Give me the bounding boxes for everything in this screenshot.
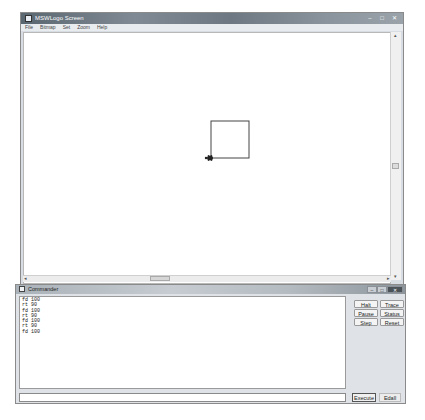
horizontal-scroll-thumb[interactable] [150,276,170,281]
turtle-graphics [24,33,390,283]
horizontal-scrollbar[interactable]: ◂ ▸ [23,275,391,282]
menu-zoom[interactable]: Zoom [77,24,90,31]
command-input[interactable] [19,393,346,402]
drawn-square [211,121,249,158]
commander-window: Commander – □ ✕ fd 100 rt 90 fd 100 rt 9… [15,284,406,404]
menu-set[interactable]: Set [63,24,71,31]
halt-button[interactable]: Halt [354,300,378,308]
history-line[interactable]: fd 100 [22,330,343,335]
maximize-button[interactable]: □ [377,14,387,22]
edall-button[interactable]: Edall [379,393,401,402]
vertical-scrollbar[interactable]: ▴ ▾ [390,32,401,280]
scroll-up-icon[interactable]: ▴ [394,33,397,38]
pause-button[interactable]: Pause [354,309,378,317]
command-history[interactable]: fd 100 rt 90 fd 100 rt 90 fd 100 rt 90 f… [19,296,346,389]
close-button[interactable]: ✕ [389,14,399,22]
scroll-left-icon[interactable]: ◂ [24,276,27,281]
commander-button-grid: Halt Trace Pause Status Step Reset [354,300,404,326]
execute-button[interactable]: Execute [352,393,376,402]
menu-help[interactable]: Help [97,24,107,31]
trace-button[interactable]: Trace [380,300,404,308]
status-button[interactable]: Status [380,309,404,317]
menu-bitmap[interactable]: Bitmap [40,24,56,31]
scroll-down-icon[interactable]: ▾ [394,274,397,279]
menu-file[interactable]: File [25,24,33,31]
main-titlebar[interactable]: MSWLogo Screen – □ ✕ [21,13,403,24]
commander-maximize-button[interactable]: □ [377,286,387,293]
window-title: MSWLogo Screen [35,14,84,23]
reset-button[interactable]: Reset [380,318,404,326]
vertical-scroll-thumb[interactable] [392,163,399,169]
drawing-canvas[interactable] [23,32,391,284]
main-window: MSWLogo Screen – □ ✕ File Bitmap Set Zoo… [20,12,404,286]
commander-close-button[interactable]: ✕ [387,286,403,293]
minimize-button[interactable]: – [365,14,375,22]
step-button[interactable]: Step [354,318,378,326]
app-icon [25,15,32,22]
commander-icon [19,286,25,292]
commander-minimize-button[interactable]: – [367,286,377,293]
commander-titlebar[interactable]: Commander – □ ✕ [16,285,405,294]
commander-title: Commander [28,285,58,294]
scroll-right-icon[interactable]: ▸ [387,276,390,281]
turtle-icon [205,155,213,161]
menu-bar: File Bitmap Set Zoom Help [21,24,403,31]
